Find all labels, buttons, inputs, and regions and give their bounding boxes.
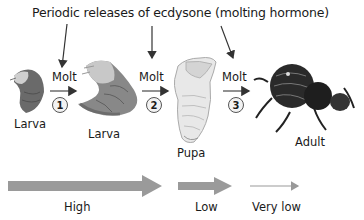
stage-label-larva-2: Larva (88, 127, 120, 141)
pupa-illustration (174, 58, 216, 143)
molt-number-badge-2: 2 (146, 97, 162, 113)
hormone-level-low: Low (195, 200, 218, 214)
stage-label-pupa: Pupa (177, 146, 205, 160)
hormone-level-high: High (64, 200, 90, 214)
diagram-title: Periodic releases of ecdysone (molting h… (32, 5, 329, 20)
hormone-level-arrows (8, 175, 298, 197)
adult-beetle-illustration (254, 64, 354, 132)
hormone-level-very-low: Very low (252, 200, 301, 214)
stage-label-adult: Adult (295, 135, 325, 149)
molt-label-1: Molt (52, 70, 77, 84)
molt-label-2: Molt (139, 70, 164, 84)
molt-number-badge-3: 3 (228, 97, 244, 113)
stage-label-larva-1: Larva (14, 117, 46, 131)
larva-small-illustration (10, 70, 44, 113)
molt-number-badge-1: 1 (52, 97, 68, 113)
larva-large-illustration (78, 61, 137, 116)
molt-label-3: Molt (222, 70, 247, 84)
